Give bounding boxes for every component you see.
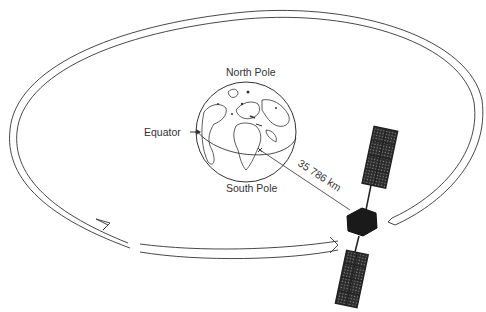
orbit-arrow-right — [388, 218, 395, 225]
south-pole-label: South Pole — [226, 182, 278, 194]
satellite-body — [347, 208, 377, 236]
north-pole-label: North Pole — [226, 66, 276, 78]
satellite — [335, 126, 397, 307]
geostationary-orbit-diagram: North Pole South Pole Equator 35 786 km — [0, 0, 486, 312]
solar-panel-upper — [362, 126, 398, 188]
orbit-arrow-left — [96, 219, 110, 230]
earth-globe — [196, 82, 296, 182]
solar-panel-lower — [335, 250, 368, 307]
equator-label: Equator — [144, 126, 181, 138]
distance-label: 35 786 km — [296, 157, 344, 194]
